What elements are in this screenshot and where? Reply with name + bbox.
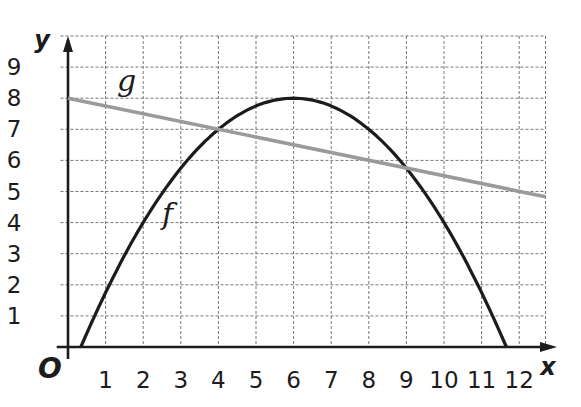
y-axis-arrow-icon [63, 36, 73, 52]
origin-label: O [38, 352, 62, 385]
y-tick-label: 9 [7, 54, 22, 80]
x-tick-label: 4 [211, 367, 226, 393]
x-tick-label: 8 [361, 367, 376, 393]
y-tick-label: 8 [7, 85, 22, 111]
x-tick-label: 1 [98, 367, 113, 393]
x-tick-label: 12 [505, 367, 534, 393]
y-tick-label: 1 [7, 303, 22, 329]
y-tick-label: 6 [7, 147, 22, 173]
x-tick-label: 11 [467, 367, 496, 393]
x-axis-arrow-icon [540, 342, 557, 352]
curve-label-f: f [160, 196, 178, 231]
x-tick-label: 6 [286, 367, 301, 393]
tick-labels: fg123456789101112123456789yxO [7, 26, 558, 393]
x-tick-label: 5 [249, 367, 264, 393]
y-tick-label: 4 [7, 210, 22, 236]
x-tick-label: 9 [399, 367, 414, 393]
y-tick-label: 7 [7, 116, 22, 142]
y-tick-label: 2 [7, 272, 22, 298]
x-tick-label: 3 [173, 367, 188, 393]
x-axis-label: x [539, 353, 557, 381]
line-g [68, 98, 546, 197]
x-tick-label: 7 [324, 367, 339, 393]
y-axis-label: y [34, 26, 51, 54]
x-tick-label: 10 [429, 367, 458, 393]
x-tick-label: 2 [136, 367, 151, 393]
curve-label-g: g [117, 63, 136, 98]
y-tick-label: 3 [7, 241, 22, 267]
function-graph: fg123456789101112123456789yxO [0, 0, 581, 407]
y-tick-label: 5 [7, 179, 22, 205]
